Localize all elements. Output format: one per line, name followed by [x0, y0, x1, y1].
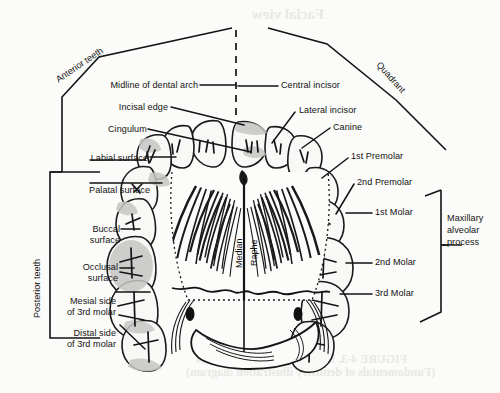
leader-second-premolar [336, 184, 354, 214]
label-posterior-teeth: Posterior teeth [32, 259, 42, 318]
label-incisal-edge: Incisal edge [108, 102, 168, 113]
maxillary-alveolar-bracket [420, 190, 448, 322]
label-palatal-surface: Palatal surface [62, 185, 150, 196]
label-median: Median [234, 238, 244, 268]
label-first-premolar: 1st Premolar [351, 151, 403, 162]
label-distal-side-of-3rd-molar: Distal side of 3rd molar [46, 328, 116, 349]
label-central-incisor: Central incisor [281, 80, 340, 91]
label-second-molar: 2nd Molar [375, 257, 416, 268]
label-cingulum: Cingulum [108, 124, 146, 135]
palatine-foramen-right [294, 307, 303, 321]
label-mesial-line1: Mesial side [70, 296, 116, 306]
label-occlusal-surface-line1: Occlusal [83, 262, 118, 272]
label-midline-of-dental-arch: Midline of dental arch [108, 80, 198, 91]
label-buccal-surface: Buccal surface [66, 224, 120, 245]
palatine-foramen-left [186, 307, 195, 321]
label-raphe: Raphe [249, 239, 259, 266]
label-mesial-line2: of 3rd molar [67, 307, 116, 317]
label-buccal-surface-line1: Buccal [92, 224, 120, 234]
label-third-molar: 3rd Molar [375, 288, 414, 299]
leader-first-premolar [322, 158, 348, 178]
label-labial-surface: Labial surface [62, 153, 148, 164]
figure-page: Facial view FIGURE 4-3. Maxillary occlus… [0, 0, 500, 393]
label-mesial-side-of-3rd-molar: Mesial side of 3rd molar [46, 296, 116, 317]
label-maxillary-line2: alveolar [447, 225, 479, 235]
label-buccal-surface-line2: surface [90, 235, 120, 245]
label-maxillary-line3: process [447, 237, 479, 247]
label-lateral-incisor: Lateral incisor [299, 105, 356, 116]
label-maxillary-line1: Maxillary [447, 213, 483, 223]
label-occlusal-surface: Occlusal surface [58, 262, 118, 283]
label-distal-line2: of 3rd molar [67, 339, 116, 349]
label-first-molar: 1st Molar [375, 207, 413, 218]
label-second-premolar: 2nd Premolar [357, 177, 412, 188]
label-occlusal-surface-line2: surface [88, 273, 118, 283]
palate-region [169, 170, 330, 369]
label-distal-line1: Distal side [74, 328, 117, 338]
label-canine: Canine [333, 122, 362, 133]
label-maxillary-alveolar-process: Maxillary alveolar process [447, 212, 497, 248]
tooth-central-incisor-left [191, 121, 226, 167]
